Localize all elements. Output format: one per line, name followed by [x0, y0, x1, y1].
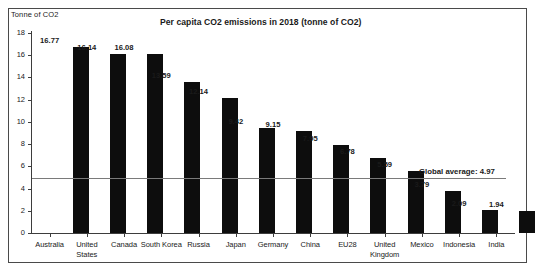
bar — [296, 131, 312, 233]
bar — [147, 54, 163, 233]
x-axis-tick-mark — [422, 234, 423, 237]
x-axis-tick-mark — [496, 234, 497, 237]
bar-value-label: 6.78 — [340, 147, 355, 156]
x-axis-tick-mark — [273, 234, 274, 237]
bar-value-label: 1.94 — [489, 200, 504, 209]
bar-value-label: 2.09 — [452, 199, 467, 208]
bar-value-label: 12.14 — [189, 87, 208, 96]
x-axis-tick-mark — [236, 234, 237, 237]
x-axis-tick-mark — [310, 234, 311, 237]
x-axis-tick-mark — [459, 234, 460, 237]
chart-figure: Tonne of CO2 Per capita CO2 emissions in… — [0, 0, 545, 274]
y-axis-tick-label: 6 — [9, 161, 25, 170]
bar — [73, 47, 89, 233]
y-axis-tick-label: 2 — [9, 206, 25, 215]
global-average-label: Global average: 4.97 — [419, 167, 495, 176]
x-axis-category-label: India — [475, 240, 518, 250]
bar — [259, 128, 275, 233]
bar-value-label: 9.42 — [228, 117, 243, 126]
y-axis-tick-label: 4 — [9, 184, 25, 193]
x-axis-tick-mark — [50, 234, 51, 237]
y-axis-tick-label: 10 — [9, 117, 25, 126]
x-axis-tick-mark — [124, 234, 125, 237]
bar-value-label: 13.59 — [152, 71, 171, 80]
x-axis-tick-mark — [161, 234, 162, 237]
bar-value-label: 16.77 — [40, 36, 59, 45]
x-axis-tick-mark — [347, 234, 348, 237]
bar-value-label: 3.79 — [415, 180, 430, 189]
bar — [370, 158, 386, 233]
y-axis-tick-label: 16 — [9, 50, 25, 59]
y-axis-tick-label: 0 — [9, 228, 25, 237]
global-average-line — [32, 178, 506, 180]
x-axis-tick-mark — [199, 234, 200, 237]
bar — [482, 210, 498, 233]
bar-value-label: 5.59 — [377, 160, 392, 169]
y-axis-tick-label: 12 — [9, 95, 25, 104]
bar — [445, 191, 461, 233]
bar — [184, 82, 200, 233]
bar — [333, 145, 349, 233]
bar-value-label: 7.95 — [303, 134, 318, 143]
y-axis-tick-label: 8 — [9, 139, 25, 148]
x-axis-tick-mark — [87, 234, 88, 237]
bar-series — [31, 25, 515, 234]
bar — [110, 54, 126, 233]
bar — [519, 211, 535, 233]
y-axis-title: Tonne of CO2 — [11, 10, 58, 19]
bar-value-label: 16.14 — [77, 43, 96, 52]
bar-value-label: 16.08 — [115, 43, 134, 52]
bar-value-label: 9.15 — [266, 120, 281, 129]
y-axis-tick-label: 18 — [9, 28, 25, 37]
y-axis-tick-label: 14 — [9, 72, 25, 81]
x-axis-tick-mark — [385, 234, 386, 237]
